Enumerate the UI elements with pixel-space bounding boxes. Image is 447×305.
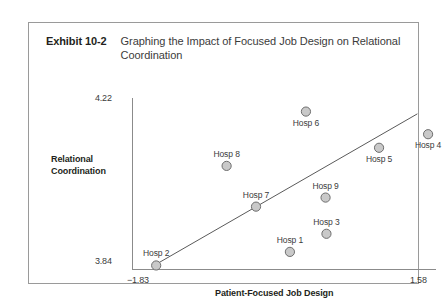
data-point-marker bbox=[251, 202, 260, 211]
exhibit-header: Exhibit 10-2 Graphing the Impact of Focu… bbox=[46, 35, 406, 62]
data-point-label: Hosp 1 bbox=[277, 235, 303, 245]
y-axis-title-line2: Coordination bbox=[51, 166, 125, 178]
scatter-plot-area: Hosp 2Hosp 8Hosp 7Hosp 1Hosp 6Hosp 9Hosp… bbox=[132, 98, 436, 270]
x-axis-title: Patient-Focused Job Design bbox=[215, 288, 333, 298]
data-point-marker bbox=[285, 247, 294, 256]
data-point-label: Hosp 6 bbox=[293, 118, 319, 128]
data-point-label: Hosp 2 bbox=[143, 248, 169, 258]
data-point-marker bbox=[322, 229, 331, 238]
data-point-marker bbox=[423, 130, 432, 139]
y-axis-tick-max: 4.22 bbox=[95, 93, 112, 103]
x-axis-tick-min: −1.83 bbox=[127, 275, 149, 285]
data-point-marker bbox=[301, 107, 310, 116]
data-point-label: Hosp 8 bbox=[213, 149, 239, 159]
data-point-marker bbox=[152, 261, 161, 270]
data-point-label: Hosp 5 bbox=[366, 154, 392, 164]
data-point-label: Hosp 7 bbox=[243, 190, 269, 200]
exhibit-frame: Exhibit 10-2 Graphing the Impact of Focu… bbox=[28, 22, 419, 284]
data-point-marker bbox=[222, 161, 231, 170]
data-point-label: Hosp 3 bbox=[313, 217, 339, 227]
exhibit-screenshot: Exhibit 10-2 Graphing the Impact of Focu… bbox=[0, 0, 447, 305]
x-axis-tick-max: 1.58 bbox=[410, 275, 427, 285]
exhibit-number: Exhibit 10-2 bbox=[46, 35, 107, 47]
y-axis-tick-min: 3.84 bbox=[95, 256, 112, 266]
y-axis-title: Relational Coordination bbox=[51, 154, 125, 177]
exhibit-title: Graphing the Impact of Focused Job Desig… bbox=[121, 35, 401, 62]
y-axis-title-line1: Relational bbox=[51, 154, 125, 166]
data-point-marker bbox=[321, 193, 330, 202]
data-point-label: Hosp 9 bbox=[312, 181, 338, 191]
data-point-marker bbox=[374, 143, 383, 152]
data-point-markers bbox=[152, 107, 433, 270]
data-point-label: Hosp 4 bbox=[415, 140, 441, 150]
